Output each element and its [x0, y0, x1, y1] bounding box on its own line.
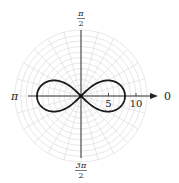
angle-label-pi: π: [10, 90, 19, 103]
fraction-numerator: 3π: [76, 161, 87, 170]
polar-plot: 510 0 π π 2 3π 2: [0, 0, 179, 183]
angle-label-0: 0: [164, 90, 171, 103]
arrow-right-icon: [150, 93, 158, 99]
tick-label: 5: [105, 98, 111, 109]
tick-label: 10: [130, 98, 143, 109]
fraction-denominator: 2: [78, 19, 83, 28]
angle-label-pi-over-2: π 2: [77, 9, 85, 28]
axes: 510: [28, 30, 158, 158]
fraction-numerator: π: [77, 9, 84, 18]
origin-point: [79, 94, 83, 98]
fraction-denominator: 2: [78, 171, 83, 180]
angle-label-3pi-over-2: 3π 2: [75, 161, 87, 180]
